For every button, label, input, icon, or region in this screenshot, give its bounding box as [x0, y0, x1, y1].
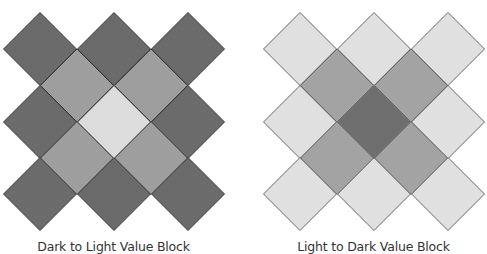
light-to-dark-value-block: Light to Dark Value Block [244, 0, 487, 247]
dark-to-light-value-block: Dark to Light Value Block [0, 0, 243, 247]
dark-to-light-diamond-pattern [0, 0, 243, 240]
light-to-dark-caption: Light to Dark Value Block [252, 240, 487, 254]
light-to-dark-diamond-pattern [244, 0, 487, 240]
dark-to-light-caption: Dark to Light Value Block [0, 240, 235, 254]
